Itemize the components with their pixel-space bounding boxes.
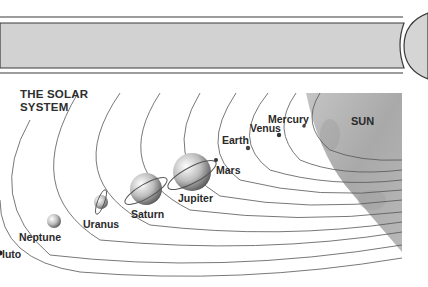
diagram-title: THE SOLAR SYSTEM — [20, 88, 88, 114]
title-line-2: SYSTEM — [20, 101, 88, 114]
solar-system-diagram — [0, 0, 428, 287]
planet-jupiter — [164, 153, 219, 195]
sun-label: SUN — [351, 116, 374, 127]
label-uranus: Uranus — [83, 219, 119, 230]
label-earth: Earth — [222, 135, 249, 146]
planet-neptune — [47, 214, 61, 228]
header-bar — [0, 13, 428, 79]
planet-uranus — [93, 189, 108, 216]
label-neptune: Neptune — [19, 232, 61, 243]
label-jupiter: Jupiter — [178, 193, 213, 204]
label-mars: Mars — [216, 165, 241, 176]
title-line-1: THE SOLAR — [20, 88, 88, 101]
label-venus: Venus — [250, 123, 281, 134]
label-pluto: luto — [2, 249, 21, 260]
planet-earth — [246, 146, 250, 150]
planet-saturn — [122, 173, 171, 209]
label-saturn: Saturn — [131, 209, 164, 220]
